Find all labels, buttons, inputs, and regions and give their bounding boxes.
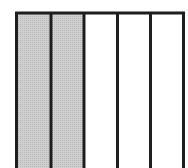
shaded-part-2 [52,14,83,168]
fraction-bar-diagram [0,0,188,168]
shaded-part-1 [17,14,50,168]
